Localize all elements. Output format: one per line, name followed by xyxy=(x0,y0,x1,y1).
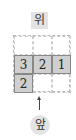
top-view-label: 위 xyxy=(31,12,48,29)
grid-cell: 2 xyxy=(33,55,52,74)
arrow-up-icon xyxy=(39,98,40,110)
grid-cell xyxy=(52,74,71,93)
grid-cell xyxy=(33,74,52,93)
grid-cell: 3 xyxy=(14,55,33,74)
grid-cell xyxy=(33,36,52,55)
grid-cell: 2 xyxy=(14,74,33,93)
front-view-label: 앞 xyxy=(30,115,50,135)
grid-cell xyxy=(52,36,71,55)
grid-cell xyxy=(14,36,33,55)
block-count-grid: 3 2 1 2 xyxy=(13,35,70,92)
grid-cell: 1 xyxy=(52,55,71,74)
